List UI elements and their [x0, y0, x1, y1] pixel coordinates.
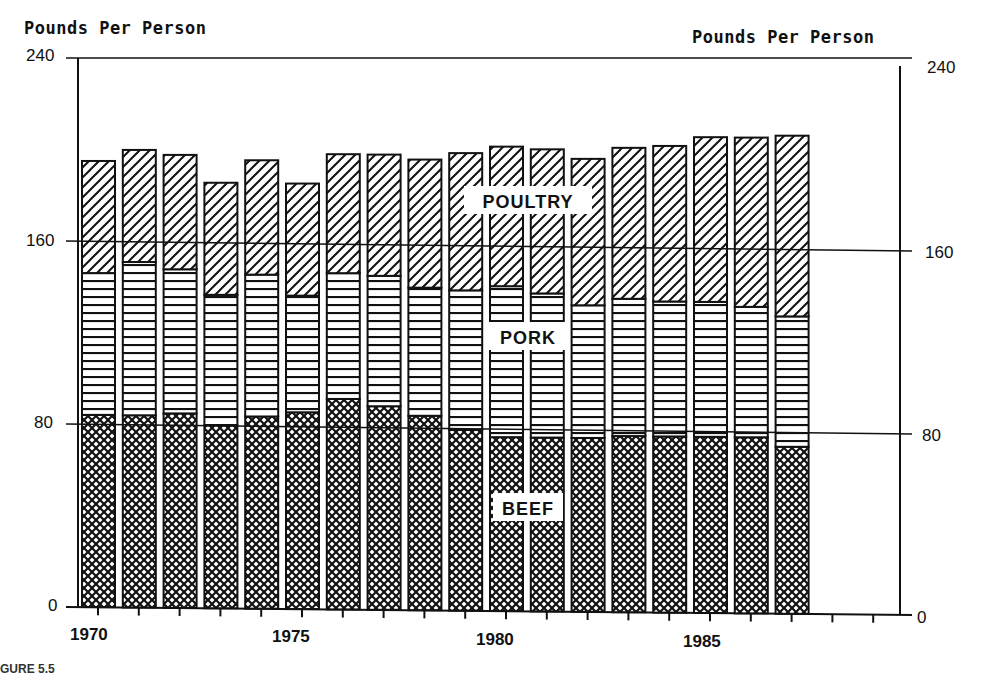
bar-1978 [408, 160, 441, 611]
bar-segment-beef [490, 437, 523, 611]
bar-segment-beef [245, 416, 278, 608]
bar-segment-poultry [245, 160, 278, 274]
bar-segment-poultry [490, 147, 523, 287]
bar-1977 [368, 155, 401, 610]
beef-segment-label: BEEF [502, 499, 554, 519]
figure-caption: GURE 5.5 [0, 662, 55, 675]
bar-segment-poultry [204, 183, 237, 295]
bar-segment-pork [286, 296, 319, 413]
pork-segment-label: PORK [500, 328, 556, 348]
bar-1986 [735, 138, 768, 614]
bar-segment-beef [204, 425, 237, 608]
bar-segment-pork [449, 290, 482, 430]
bar-segment-pork [204, 295, 237, 425]
bar-segment-beef [327, 399, 360, 609]
bar-segment-pork [694, 302, 727, 437]
bar-segment-beef [776, 447, 809, 614]
bar-segment-pork [368, 276, 401, 406]
bar-segment-pork [572, 305, 605, 438]
bar-segment-poultry [653, 146, 686, 302]
bar-segment-beef [123, 415, 156, 607]
bar-segment-pork [531, 293, 564, 437]
bar-1971 [123, 150, 156, 608]
bar-1987 [776, 136, 809, 614]
bar-segment-poultry [735, 138, 768, 307]
bar-segment-beef [694, 437, 727, 613]
bar-1979 [449, 153, 482, 611]
bar-segment-poultry [449, 153, 482, 290]
stacked-bar-chart: POULTRYPORKBEEF [0, 0, 985, 675]
bar-segment-beef [572, 438, 605, 612]
bar-1981 [531, 149, 564, 611]
bar-1970 [82, 161, 115, 607]
bar-1972 [164, 155, 197, 608]
bar-segment-pork [327, 273, 360, 399]
bar-segment-poultry [82, 161, 115, 273]
bar-1974 [245, 160, 278, 608]
bar-1976 [327, 154, 360, 609]
bar-segment-beef [735, 437, 768, 613]
bar-segment-pork [82, 273, 115, 415]
bar-segment-poultry [327, 154, 360, 273]
bar-segment-pork [164, 269, 197, 413]
bar-segment-poultry [164, 155, 197, 269]
bar-segment-pork [653, 301, 686, 436]
bar-1980 [490, 147, 523, 611]
bar-segment-beef [531, 438, 564, 612]
bar-1982 [572, 159, 605, 612]
bar-segment-poultry [776, 136, 809, 317]
bar-segment-pork [408, 288, 441, 416]
bar-segment-beef [286, 412, 319, 609]
bar-1973 [204, 183, 237, 608]
bar-segment-beef [408, 416, 441, 610]
bar-segment-pork [776, 316, 809, 446]
bar-segment-pork [245, 275, 278, 417]
bar-segment-poultry [286, 184, 319, 296]
bar-segment-beef [449, 430, 482, 611]
bar-segment-pork [123, 262, 156, 415]
bars-group [82, 136, 809, 614]
poultry-segment-label: POULTRY [483, 192, 574, 212]
bar-segment-beef [368, 406, 401, 610]
bar-segment-poultry [368, 155, 401, 276]
bar-segment-beef [653, 436, 686, 612]
bar-segment-poultry [612, 148, 645, 299]
bar-segment-beef [612, 436, 645, 612]
bar-segment-poultry [408, 160, 441, 288]
bar-segment-beef [82, 415, 115, 607]
bar-segment-poultry [572, 159, 605, 305]
bar-segment-poultry [531, 149, 564, 293]
bar-segment-pork [490, 286, 523, 437]
bar-segment-pork [612, 299, 645, 436]
bar-1975 [286, 184, 319, 609]
bar-segment-poultry [123, 150, 156, 262]
bar-segment-beef [164, 413, 197, 607]
bar-1984 [653, 146, 686, 613]
bar-1983 [612, 148, 645, 612]
bar-1985 [694, 137, 727, 613]
bar-segment-pork [735, 307, 768, 437]
bar-segment-poultry [694, 137, 727, 302]
